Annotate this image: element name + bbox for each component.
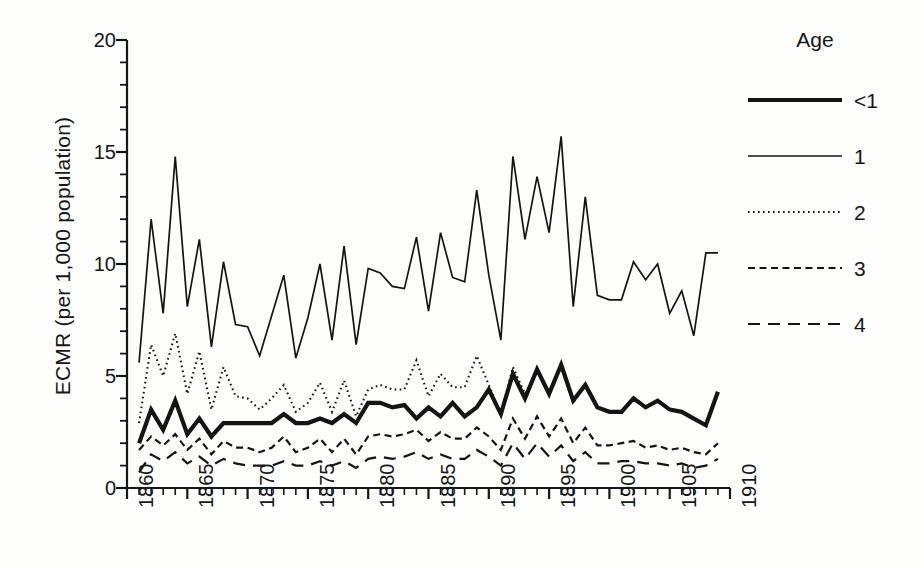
- series-line-2: [139, 333, 718, 425]
- chart-legend: Age <11234: [742, 28, 917, 338]
- legend-item-lt1[interactable]: <1: [742, 88, 917, 114]
- y-axis-tick-label: 15: [94, 141, 116, 164]
- x-axis-tick-label: 1905: [678, 464, 701, 509]
- x-axis-tick-label: 1865: [195, 464, 218, 509]
- x-axis-tick-label: 1860: [135, 464, 158, 509]
- x-axis-tick-label: 1875: [316, 464, 339, 509]
- legend-item-label: 4: [854, 312, 866, 338]
- legend-item-1[interactable]: 1: [742, 144, 917, 170]
- series-line-lt1: [139, 365, 718, 443]
- x-axis-tick-label: 1895: [557, 464, 580, 509]
- y-axis-tick-label: 5: [105, 365, 116, 388]
- legend-item-label: <1: [854, 88, 878, 114]
- legend-item-2[interactable]: 2: [742, 200, 917, 226]
- x-axis-tick-label: 1910: [738, 464, 761, 509]
- chart-figure: ECMR (per 1,000 population) 05101520 186…: [0, 0, 921, 570]
- y-axis-tick-labels: 05101520: [58, 0, 116, 570]
- legend-item-label: 1: [854, 144, 866, 170]
- x-axis-tick-label: 1885: [437, 464, 460, 509]
- legend-title: Age: [742, 28, 888, 52]
- x-axis-tick-label: 1890: [497, 464, 520, 509]
- legend-item-label: 2: [854, 200, 866, 226]
- legend-item-3[interactable]: 3: [742, 256, 917, 282]
- x-axis-tick-label: 1900: [617, 464, 640, 509]
- x-axis-tick-label: 1870: [256, 464, 279, 509]
- series-line-1: [139, 136, 718, 362]
- y-axis-tick-label: 20: [94, 29, 116, 52]
- x-axis-tick-label: 1880: [376, 464, 399, 509]
- legend-item-label: 3: [854, 256, 866, 282]
- y-axis-tick-label: 10: [94, 253, 116, 276]
- legend-item-4[interactable]: 4: [742, 312, 917, 338]
- y-axis-tick-label: 0: [105, 477, 116, 500]
